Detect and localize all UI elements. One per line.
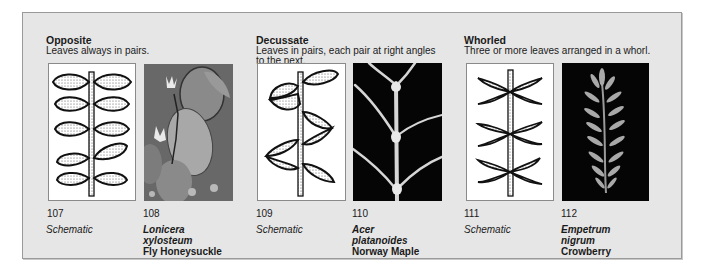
figure-number: 107 xyxy=(47,208,64,219)
photo-lonicera-xylosteum xyxy=(144,64,233,201)
figure-caption: Schematic xyxy=(464,224,511,235)
latin-genus: Acer xyxy=(352,224,419,235)
figure-number: 111 xyxy=(464,208,479,219)
latin-genus: Empetrum xyxy=(561,224,611,235)
latin-species: platanoides xyxy=(352,235,419,246)
opposite-leaves-schematic-icon xyxy=(49,64,135,200)
honeysuckle-photo-icon xyxy=(144,64,233,201)
figure-caption: Schematic xyxy=(256,224,303,235)
species-caption: Acer platanoides Norway Maple xyxy=(352,224,419,257)
photo-acer-platanoides xyxy=(353,63,442,201)
figure-number: 109 xyxy=(256,208,273,219)
common-name: Norway Maple xyxy=(352,246,419,257)
schematic-decussate xyxy=(257,63,346,201)
schematic-whorled xyxy=(466,63,554,201)
latin-species: xylosteum xyxy=(143,235,222,246)
group-description: Leaves always in pairs. xyxy=(46,45,149,56)
figure-caption: Schematic xyxy=(46,224,93,235)
whorled-leaves-schematic-icon xyxy=(467,64,553,200)
figure-number: 108 xyxy=(143,208,160,219)
species-caption: Lonicera xylosteum Fly Honeysuckle xyxy=(143,224,222,257)
figure-number: 112 xyxy=(561,208,577,219)
crowberry-shoot-photo-icon xyxy=(562,63,649,201)
photo-empetrum-nigrum xyxy=(562,63,649,201)
latin-species: nigrum xyxy=(561,235,611,246)
common-name: Crowberry xyxy=(561,246,611,257)
maple-shoot-photo-icon xyxy=(353,63,442,201)
species-caption: Empetrum nigrum Crowberry xyxy=(561,224,611,257)
schematic-opposite xyxy=(48,63,136,201)
common-name: Fly Honeysuckle xyxy=(143,246,222,257)
figure-number: 110 xyxy=(352,208,368,219)
leaf-arrangement-panel: Opposite Leaves always in pairs. xyxy=(22,12,682,259)
group-description: Three or more leaves arranged in a whorl… xyxy=(464,45,650,56)
latin-genus: Lonicera xyxy=(143,224,222,235)
decussate-leaves-schematic-icon xyxy=(258,64,345,200)
